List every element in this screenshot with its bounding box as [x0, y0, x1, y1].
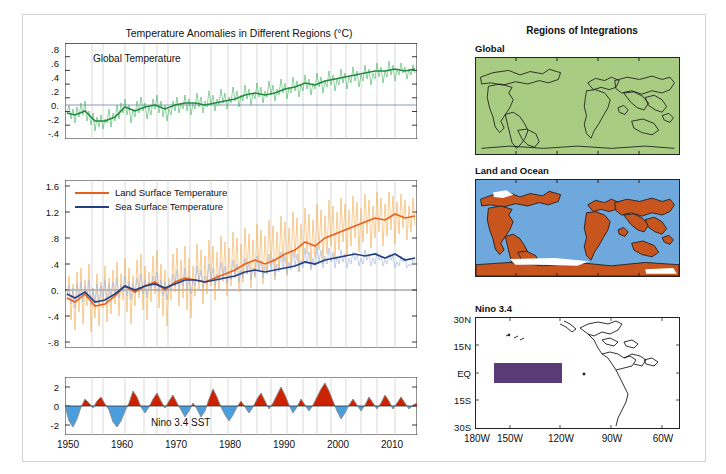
legend-label-sea: Sea Surface Temperature	[115, 201, 223, 212]
ytick-nino-0: 2	[35, 382, 59, 393]
xtick-6: 2010	[381, 439, 403, 450]
map-land-ocean	[475, 179, 680, 277]
ytick-nino-2: -2	[35, 420, 59, 431]
map-nino-ytick-0: 30N	[439, 314, 471, 325]
legend-label-land: Land Surface Temperature	[115, 187, 227, 198]
map-nino-xtick-2: 120W	[548, 433, 574, 444]
ytick-landsea-5: -.4	[29, 311, 59, 322]
ytick-landsea-6: -.8	[29, 337, 59, 348]
map-nino-xtick-0: 180W	[464, 433, 490, 444]
xtick-0: 1950	[57, 439, 79, 450]
legend-swatch-sea	[75, 203, 109, 211]
ytick-landsea-4: 0.	[29, 285, 59, 296]
ytick-global-5: -.2	[35, 114, 59, 125]
map-nino34	[475, 317, 680, 429]
map-nino-xtick-4: 60W	[653, 433, 674, 444]
map-land-ocean-title: Land and Ocean	[475, 165, 549, 176]
figure-sheet: Temperature Anomalies in Different Regio…	[22, 14, 706, 462]
ytick-global-1: .6	[35, 58, 59, 69]
ytick-global-0: .8	[35, 44, 59, 55]
xtick-5: 2000	[327, 439, 349, 450]
map-global-title: Global	[475, 43, 505, 54]
map-nino34-title: Nino 3.4	[475, 303, 512, 314]
ytick-landsea-0: 1.6	[29, 181, 59, 192]
xtick-3: 1980	[219, 439, 241, 450]
nino34-label: Nino 3.4 SST	[151, 417, 210, 428]
ytick-landsea-1: 1.2	[29, 207, 59, 218]
global-temperature-label: Global Temperature	[93, 53, 181, 64]
ytick-global-4: 0.	[35, 100, 59, 111]
xtick-4: 1990	[273, 439, 295, 450]
ytick-landsea-3: .4	[29, 259, 59, 270]
xtick-1: 1960	[111, 439, 133, 450]
xtick-2: 1970	[165, 439, 187, 450]
map-nino-xtick-3: 90W	[602, 433, 623, 444]
map-nino-ytick-3: 15S	[439, 395, 471, 406]
legend-swatch-land	[75, 189, 109, 197]
panel-nino34-sst: 2 0 -2	[23, 365, 453, 455]
map-nino-ytick-1: 15N	[439, 341, 471, 352]
ytick-global-6: -.4	[35, 128, 59, 139]
ytick-landsea-2: .8	[29, 233, 59, 244]
nino34-region-box	[494, 363, 562, 383]
ytick-nino-1: 0	[35, 401, 59, 412]
screenshot-page: Temperature Anomalies in Different Regio…	[0, 0, 726, 474]
ytick-global-2: .4	[35, 72, 59, 83]
panel-global-temperature: .8 .6 .4 .2 0. -.2 -.4	[23, 15, 453, 165]
map-nino-ytick-2: EQ	[439, 368, 471, 379]
map-nino-xtick-1: 150W	[497, 433, 523, 444]
panel-land-sea-temperature: 1.6 1.2 .8 .4 0. -.4 -.8	[23, 165, 453, 365]
map-nino-ytick-4: 30S	[439, 422, 471, 433]
map-global	[475, 57, 680, 155]
right-column-title: Regions of Integrations	[463, 25, 701, 36]
nino34-sst-plot	[65, 377, 417, 435]
ytick-global-3: .2	[35, 86, 59, 97]
